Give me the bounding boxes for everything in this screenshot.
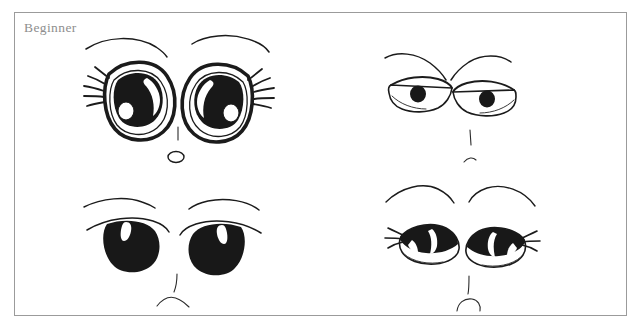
screenshot-canvas: Beginner: [0, 0, 641, 331]
level-label: Beginner: [24, 20, 77, 36]
artwork-frame: [14, 12, 627, 316]
